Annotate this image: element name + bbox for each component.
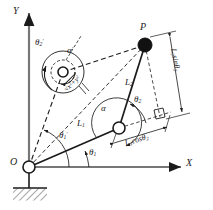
alpha-label: α: [101, 104, 106, 113]
endpoint-p[interactable]: [138, 38, 152, 52]
theta1-label: θ1: [89, 148, 96, 158]
endpoint-label: P: [140, 22, 146, 32]
theta2-label: θ2: [134, 95, 141, 105]
figure-canvas: Y X O P L1 L2 θ1 θ1′ θ2 θ2′ α α′ L2sinθ2…: [0, 0, 213, 210]
axis-y-label: Y: [13, 6, 19, 16]
theta2-prime-mark: ′: [42, 38, 43, 44]
theta1-sub: 1: [93, 151, 96, 157]
dimension-l2-sin-theta2: [150, 31, 190, 119]
link-2-label: L2: [125, 78, 133, 88]
joint-elbow[interactable]: [113, 122, 125, 134]
joint-elbow-alt[interactable]: [58, 67, 68, 77]
origin-label: O: [10, 157, 17, 167]
theta1-prime-mark: ′: [66, 131, 67, 137]
kinematics-diagram-svg: [0, 0, 213, 210]
radial-line-op: [29, 45, 145, 167]
theta1-prime-label: θ1′: [59, 131, 67, 141]
theta2-sub: 2: [138, 98, 141, 104]
link-1-dashed-alt: [29, 72, 63, 167]
theta2-prime-label: θ2′: [35, 38, 43, 48]
link-1-label: L1: [77, 119, 85, 129]
alpha-prime-mark: ′: [72, 46, 73, 52]
link-1-label-sub: 1: [82, 122, 85, 128]
right-angle-marker-icon: [154, 108, 165, 119]
link-2-label-sub: 2: [130, 81, 133, 87]
alpha-prime-label: α′: [67, 46, 73, 55]
link-1-solid: [29, 128, 119, 167]
joint-origin[interactable]: [23, 161, 35, 173]
axis-x-label: X: [186, 158, 192, 168]
link-2-dashed-alt: [63, 45, 145, 72]
radial-dimension-ticks: [79, 83, 89, 94]
alpha-base: α: [101, 103, 106, 113]
dim-v-fn-sub: 2: [173, 68, 178, 71]
